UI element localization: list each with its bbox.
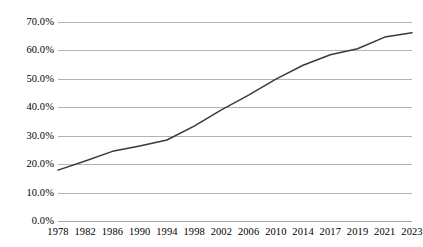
x-tick-label: 2010 [265, 226, 286, 238]
y-axis-labels: 0.0%10.0%20.0%30.0%40.0%50.0%60.0%70.0% [0, 22, 54, 221]
x-tick-label: 2002 [211, 226, 232, 238]
y-tick-label: 10.0% [26, 187, 54, 198]
x-tick-label: 2017 [320, 226, 341, 238]
x-axis-labels: 1978198219861990199419982002200620102014… [58, 226, 412, 242]
x-tick-label: 1986 [102, 226, 123, 238]
y-tick-label: 30.0% [26, 130, 54, 141]
x-tick-label: 1978 [47, 226, 68, 238]
x-tick-label: 2019 [347, 226, 368, 238]
x-tick-label: 2021 [374, 226, 395, 238]
series-path [58, 33, 412, 170]
series-line-urbanization-rate [58, 22, 412, 221]
line-chart: 0.0%10.0%20.0%30.0%40.0%50.0%60.0%70.0% … [0, 0, 423, 247]
y-tick-label: 50.0% [26, 74, 54, 85]
x-tick-label: 1982 [75, 226, 96, 238]
y-tick-label: 20.0% [26, 159, 54, 170]
x-tick-label: 2023 [401, 226, 422, 238]
x-tick-label: 1990 [129, 226, 150, 238]
y-tick-label: 60.0% [26, 45, 54, 56]
x-tick-label: 1998 [183, 226, 204, 238]
y-tick-label: 70.0% [26, 17, 54, 28]
y-tick-label: 40.0% [26, 102, 54, 113]
y-tick-label: 0.0% [32, 216, 54, 227]
x-tick-label: 2006 [238, 226, 259, 238]
x-tick-label: 2014 [292, 226, 313, 238]
gridline-00 [58, 221, 412, 222]
plot-area [58, 22, 412, 221]
x-tick-label: 1994 [156, 226, 177, 238]
